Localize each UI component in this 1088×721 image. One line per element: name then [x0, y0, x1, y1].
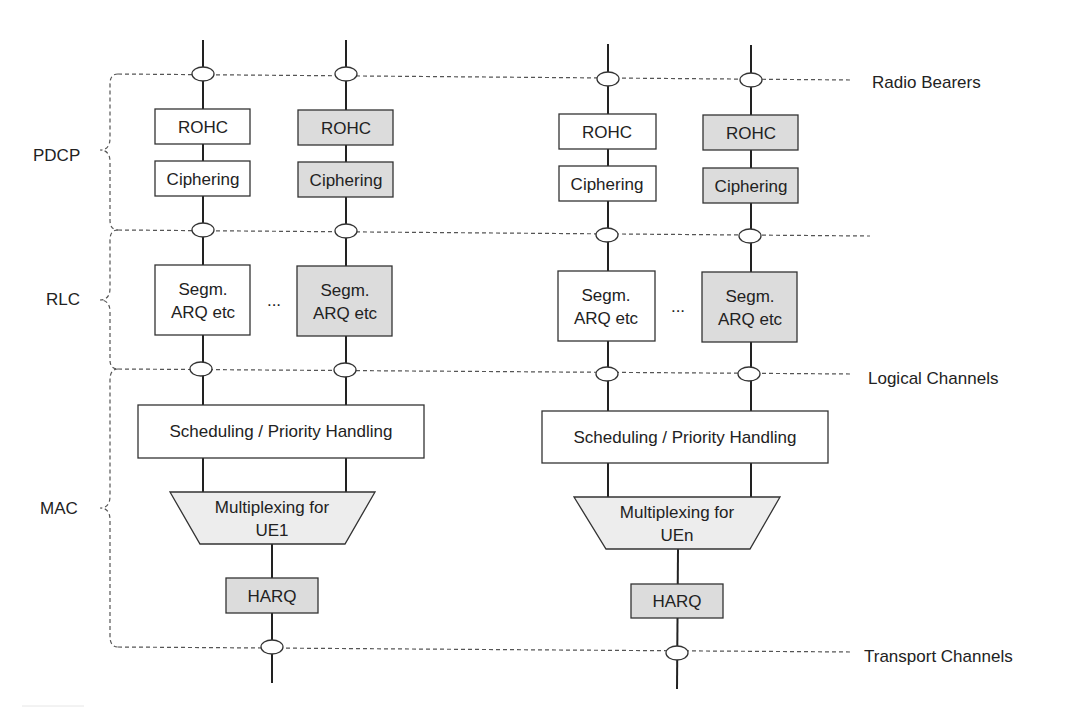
uen-transport-wire: [677, 549, 678, 689]
ue1-mux-line1: Multiplexing for: [215, 498, 330, 517]
layer-braces: [100, 74, 118, 647]
ue1-bearer2-rlc-line2: ARQ etc: [313, 304, 378, 323]
ue1-radio-bearer-sap-2: [335, 67, 357, 81]
ue1-mux-line2: UE1: [255, 521, 288, 540]
ue1-rlc-sap-1: [192, 223, 214, 237]
ue1-scheduling-label: Scheduling / Priority Handling: [169, 422, 392, 441]
ue1-bearer-ellipsis: ...: [267, 291, 281, 310]
ue1-bearer1-ciphering-label: Ciphering: [167, 170, 240, 189]
uen-bearer1-ciphering-label: Ciphering: [571, 175, 644, 194]
uen-bearer2-rlc-box: [702, 272, 797, 342]
mac-label: MAC: [40, 499, 78, 518]
uen-radio-bearer-sap-1: [597, 72, 619, 86]
rlc-label: RLC: [46, 290, 80, 309]
ue1-bearer1-rlc-line2: ARQ etc: [171, 303, 236, 322]
ue1-bearer2-ciphering-label: Ciphering: [310, 171, 383, 190]
ue1-bearer2-rohc-label: ROHC: [321, 119, 371, 138]
uen-transport-channel-sap: [666, 646, 688, 660]
uen-harq-label: HARQ: [652, 592, 701, 611]
ue1-radio-bearer-sap-1: [192, 67, 214, 81]
uen-bearer1-rlc-line1: Segm.: [581, 286, 630, 305]
pdcp-brace: [100, 74, 118, 230]
ue1-stack: ROHC Ciphering Segm. ARQ etc ... ROHC Ci…: [138, 40, 424, 683]
ue1-bearer1-rlc-box: [155, 265, 250, 335]
lte-layer2-diagram: PDCP RLC MAC Radio Bearers Logical Chann…: [0, 0, 1088, 721]
uen-logical-channel-sap-1: [596, 367, 618, 381]
logical-channels-label: Logical Channels: [868, 369, 998, 388]
uen-logical-channel-sap-2: [738, 367, 760, 381]
uen-mux-line2: UEn: [660, 526, 693, 545]
uen-scheduling-label: Scheduling / Priority Handling: [573, 428, 796, 447]
pdcp-label: PDCP: [33, 146, 80, 165]
ue1-transport-channel-sap: [261, 640, 283, 654]
ue1-bearer2-rlc-line1: Segm.: [320, 281, 369, 300]
ue1-logical-channel-sap-2: [334, 363, 356, 377]
uen-rlc-sap-2: [739, 229, 761, 243]
ue1-logical-channel-sap-1: [190, 362, 212, 376]
transport-channels-label: Transport Channels: [864, 647, 1013, 666]
ue1-rlc-sap-2: [335, 224, 357, 238]
ue1-bearer1-rlc-line1: Segm.: [178, 280, 227, 299]
ue1-harq-label: HARQ: [247, 587, 296, 606]
ue1-bearer2-rlc-box: [297, 266, 392, 336]
uen-bearer-ellipsis: ...: [671, 297, 685, 316]
uen-bearer2-rohc-label: ROHC: [726, 124, 776, 143]
uen-bearer1-rlc-line2: ARQ etc: [574, 309, 639, 328]
mac-brace: [100, 369, 118, 647]
rlc-brace: [100, 230, 118, 369]
uen-mux-line1: Multiplexing for: [620, 503, 735, 522]
uen-stack: ROHC Ciphering Segm. ARQ etc ... ROHC Ci…: [542, 44, 828, 689]
transport-channels-boundary: [118, 647, 853, 652]
uen-bearer2-rlc-line1: Segm.: [725, 287, 774, 306]
uen-radio-bearer-sap-2: [740, 73, 762, 87]
uen-bearer1-rohc-label: ROHC: [582, 123, 632, 142]
uen-rlc-sap-1: [596, 228, 618, 242]
ue1-bearer1-rohc-label: ROHC: [178, 118, 228, 137]
radio-bearers-label: Radio Bearers: [872, 73, 981, 92]
uen-bearer2-ciphering-label: Ciphering: [715, 177, 788, 196]
uen-bearer1-rlc-box: [558, 271, 655, 341]
uen-bearer2-rlc-line2: ARQ etc: [718, 310, 783, 329]
